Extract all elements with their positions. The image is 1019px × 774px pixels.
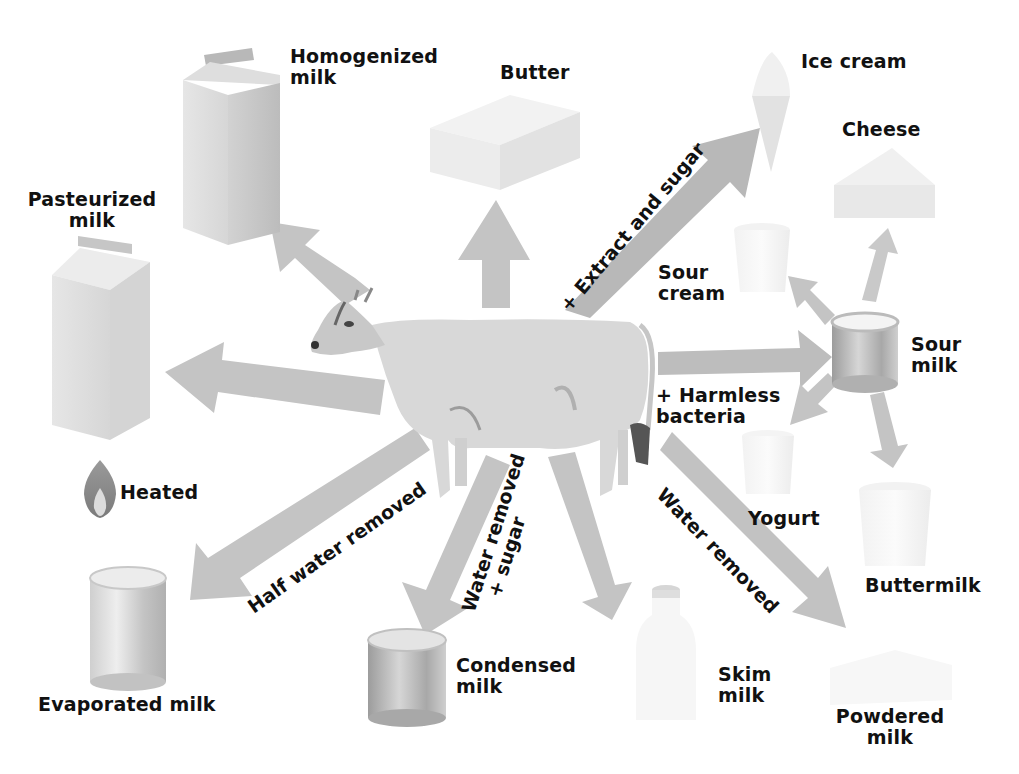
- cup-icon-buttermilk: [859, 482, 931, 566]
- cheese-wedge-icon: [834, 148, 935, 218]
- label-line: Ice cream: [801, 51, 907, 72]
- label-cheese: Cheese: [842, 119, 921, 140]
- milk-carton-icon-homogenized: [183, 48, 280, 245]
- arrow-sour-milk-to-cheese: [862, 228, 898, 302]
- milk-can-icon-sour-milk: [832, 313, 898, 393]
- label-line: Evaporated milk: [38, 694, 216, 715]
- powdered-milk-icon: [830, 650, 952, 705]
- label-heated: Heated: [120, 482, 198, 503]
- label-line: Homogenized: [290, 46, 438, 67]
- milk-can-icon-condensed: [368, 629, 446, 727]
- label-line: Condensed: [456, 655, 576, 676]
- arrow-to-sour-milk: [658, 330, 832, 388]
- label-line: Sour: [658, 262, 725, 283]
- label-line: Buttermilk: [865, 575, 981, 596]
- label-line: Heated: [120, 482, 198, 503]
- arrow-sour-milk-to-sour-cream: [788, 276, 835, 325]
- label-condensed-milk: Condensed milk: [456, 655, 576, 697]
- label-ice-cream: Ice cream: [801, 51, 907, 72]
- label-buttermilk: Buttermilk: [865, 575, 981, 596]
- arrow-to-butter: [458, 200, 530, 308]
- label-line: + Harmless: [656, 385, 780, 406]
- arrow-sour-milk-to-yogurt: [790, 373, 838, 425]
- label-line: milk: [290, 67, 438, 88]
- label-butter: Butter: [500, 62, 570, 83]
- cup-icon-yogurt: [742, 430, 794, 494]
- label-line: milk: [835, 727, 945, 748]
- ice-cream-cone-icon: [752, 52, 790, 172]
- arrow-sour-milk-to-buttermilk: [870, 392, 908, 468]
- label-sour-cream: Sour cream: [658, 262, 725, 304]
- label-line: Sour: [911, 334, 961, 355]
- bottle-icon-skim: [636, 585, 696, 720]
- label-line: milk: [456, 676, 576, 697]
- butter-block-icon: [430, 95, 580, 190]
- label-line: Butter: [500, 62, 570, 83]
- label-line: milk: [718, 685, 771, 706]
- label-harmless-bacteria: + Harmless bacteria: [656, 385, 780, 427]
- label-pasteurized-milk: Pasteurized milk: [26, 189, 158, 231]
- label-line: milk: [911, 355, 961, 376]
- label-line: cream: [658, 283, 725, 304]
- label-evaporated-milk: Evaporated milk: [38, 694, 216, 715]
- milk-can-icon-evaporated: [90, 567, 166, 691]
- arrow-to-homogenized: [270, 222, 370, 305]
- arrow-to-pasteurized: [165, 342, 385, 415]
- label-line: Cheese: [842, 119, 921, 140]
- label-sour-milk: Sour milk: [911, 334, 961, 376]
- label-line: bacteria: [656, 406, 780, 427]
- label-yogurt: Yogurt: [748, 508, 820, 529]
- label-line: milk: [26, 210, 158, 231]
- label-powdered-milk: Powdered milk: [835, 706, 945, 748]
- label-homogenized-milk: Homogenized milk: [290, 46, 438, 88]
- label-line: Skim: [718, 664, 771, 685]
- milk-carton-icon-pasteurized: [52, 236, 150, 440]
- label-line: Yogurt: [748, 508, 820, 529]
- label-line: Powdered: [835, 706, 945, 727]
- flame-icon: [84, 460, 116, 518]
- label-line: Pasteurized: [26, 189, 158, 210]
- label-skim-milk: Skim milk: [718, 664, 771, 706]
- cup-icon-sour-cream: [734, 223, 790, 292]
